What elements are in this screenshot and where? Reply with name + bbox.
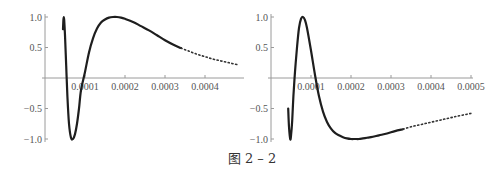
- figure-caption: 图 2 – 2: [0, 148, 504, 167]
- y-tick-label: −0.5: [250, 103, 268, 114]
- x-tick-label: 0.0001: [297, 81, 325, 92]
- x-tick-label: 0.0003: [151, 81, 179, 92]
- curve-left-dotted: [181, 48, 237, 64]
- y-tick-label: −1.0: [24, 134, 42, 145]
- x-tick-label: 0.0003: [377, 81, 405, 92]
- chart-right: 0.00010.00020.00030.00040.00051.00.5−0.5…: [250, 12, 485, 145]
- x-tick-label: 0.0004: [191, 81, 219, 92]
- chart-left: 0.00010.00020.00030.00041.00.5−0.5−1.0: [24, 12, 244, 145]
- x-tick-label: 0.0004: [417, 81, 445, 92]
- x-tick-label: 0.0005: [457, 81, 485, 92]
- y-tick-label: 1.0: [256, 12, 269, 23]
- x-tick-label: 0.0001: [71, 81, 99, 92]
- y-tick-label: 1.0: [30, 12, 43, 23]
- y-tick-label: −1.0: [250, 134, 268, 145]
- y-tick-label: 0.5: [256, 42, 269, 53]
- x-tick-label: 0.0002: [111, 81, 139, 92]
- y-tick-label: −0.5: [24, 103, 42, 114]
- x-tick-label: 0.0002: [337, 81, 365, 92]
- curve-right-dotted: [403, 113, 471, 129]
- y-tick-label: 0.5: [30, 42, 43, 53]
